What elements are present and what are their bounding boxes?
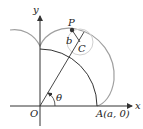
point-a-label: A(a, 0) [95,108,130,119]
y-axis-label: y [32,4,39,15]
epicycloid-diagram: y x O P b C θ A(a, 0) [0,0,143,129]
x-axis-label: x [135,100,141,111]
center-c-label: C [78,43,86,54]
point-p [70,28,74,32]
angle-arc [48,93,55,106]
epicycloid-curve [10,28,114,106]
point-p-label: P [67,17,75,28]
origin-label: O [30,108,38,119]
radius-b-label: b [66,35,72,46]
angle-label: θ [56,92,62,103]
